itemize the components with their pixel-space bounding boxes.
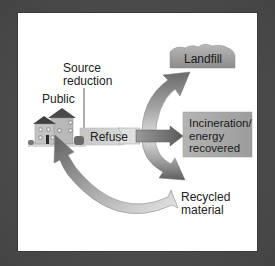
public-label: Public [42, 93, 75, 106]
incineration-line1: Incineration/ [189, 117, 252, 130]
source-reduction-line2: reduction [63, 75, 112, 88]
refuse-label: Refuse [90, 131, 128, 144]
incineration-line2: energy [189, 130, 252, 143]
landfill-label: Landfill [184, 53, 222, 66]
source-reduction-label: Source reduction [63, 62, 112, 88]
incineration-line3: recovered [189, 142, 252, 155]
incineration-label: Incineration/ energy recovered [189, 117, 252, 155]
recycled-material-label: Recycled material [181, 191, 230, 217]
arrow-to-recycled [142, 136, 185, 180]
recycled-line2: material [181, 204, 230, 217]
